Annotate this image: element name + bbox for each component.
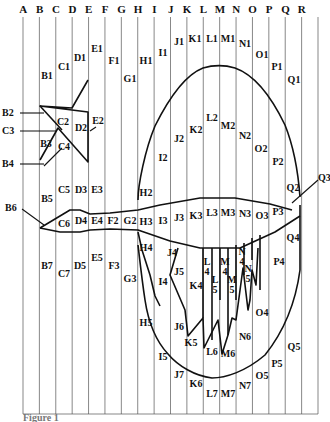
stacked-cell-label: 5 bbox=[213, 284, 218, 295]
cell-label: E4 bbox=[91, 215, 103, 226]
cell-label: L6 bbox=[206, 346, 218, 357]
cell-label: N3 bbox=[239, 208, 251, 219]
cell-label: D1 bbox=[74, 52, 86, 63]
stacked-cell-label: 5 bbox=[246, 273, 251, 284]
column-label: F bbox=[102, 3, 109, 15]
cell-label: J5 bbox=[174, 266, 184, 277]
cell-label: H5 bbox=[140, 317, 153, 328]
column-label: N bbox=[232, 3, 240, 15]
column-label: H bbox=[134, 3, 143, 15]
cell-label: B7 bbox=[41, 260, 53, 271]
cell-label: F2 bbox=[107, 215, 118, 226]
cell-label: D2 bbox=[75, 122, 87, 133]
cell-label: K2 bbox=[190, 124, 203, 135]
cell-label: K4 bbox=[190, 280, 203, 291]
cell-label: H1 bbox=[140, 55, 153, 66]
cell-label: H3 bbox=[140, 216, 153, 227]
side-label: B2 bbox=[2, 107, 14, 118]
cell-label: O1 bbox=[256, 49, 269, 60]
cell-label: Q1 bbox=[288, 74, 301, 85]
cell-label: L1 bbox=[206, 33, 218, 44]
side-label: C3 bbox=[2, 125, 14, 136]
cell-label: D5 bbox=[74, 260, 86, 271]
cell-label: H4 bbox=[140, 242, 153, 253]
cell-label: L7 bbox=[206, 388, 218, 399]
cell-label: P3 bbox=[272, 206, 283, 217]
column-label: B bbox=[36, 3, 44, 15]
side-label: B4 bbox=[2, 158, 14, 169]
cell-label: I4 bbox=[159, 276, 168, 287]
side-label: B6 bbox=[5, 202, 17, 213]
figure-caption: Figure 1 bbox=[23, 412, 59, 422]
cell-label: I3 bbox=[159, 215, 168, 226]
column-label: C bbox=[52, 3, 60, 15]
cell-label: I2 bbox=[159, 152, 168, 163]
oval-top-shape bbox=[138, 66, 300, 200]
stacked-cell-label: 4 bbox=[205, 266, 210, 277]
cell-label: J1 bbox=[174, 36, 184, 47]
cell-label: P2 bbox=[272, 156, 283, 167]
cell-label: N6 bbox=[239, 331, 251, 342]
cell-label: O4 bbox=[256, 307, 269, 318]
cell-label: M1 bbox=[221, 33, 235, 44]
cell-label: O5 bbox=[256, 370, 269, 381]
cell-label: G1 bbox=[124, 73, 137, 84]
cell-label: N7 bbox=[239, 380, 251, 391]
figure-canvas: ABCDEFGHIJKLMNOPQR B1C1D1E1F1G1H1I1J1K1L… bbox=[0, 0, 330, 422]
cell-label: M7 bbox=[221, 388, 235, 399]
cell-label: C1 bbox=[58, 61, 70, 72]
cell-label: J3 bbox=[174, 212, 184, 223]
cell-label: O2 bbox=[255, 143, 268, 154]
column-label: Q bbox=[281, 3, 290, 15]
column-label: R bbox=[298, 3, 307, 15]
cell-label: G2 bbox=[124, 215, 137, 226]
column-label: M bbox=[215, 3, 226, 15]
side-label: Q3 bbox=[318, 172, 330, 183]
cell-label: J7 bbox=[174, 369, 184, 380]
arrow-e2 bbox=[90, 127, 96, 131]
arrow-b6 bbox=[22, 209, 44, 225]
cell-label: L2 bbox=[206, 112, 218, 123]
cell-label: P5 bbox=[271, 358, 282, 369]
cell-label: Q2 bbox=[287, 182, 300, 193]
cell-label: C6 bbox=[58, 218, 70, 229]
cell-label: K1 bbox=[189, 33, 202, 44]
cell-label: L3 bbox=[206, 207, 218, 218]
cell-label: M6 bbox=[221, 348, 235, 359]
cell-label: D4 bbox=[75, 215, 87, 226]
column-label: L bbox=[200, 3, 207, 15]
cell-label: C5 bbox=[58, 184, 70, 195]
column-label: I bbox=[152, 3, 156, 15]
cell-label: N2 bbox=[239, 130, 251, 141]
cell-label: J6 bbox=[174, 321, 184, 332]
cell-label: P4 bbox=[273, 256, 284, 267]
cell-label: I1 bbox=[159, 47, 168, 58]
column-label: J bbox=[168, 3, 174, 15]
cell-label: C7 bbox=[58, 268, 70, 279]
column-label: P bbox=[266, 3, 273, 15]
column-label: G bbox=[117, 3, 126, 15]
cell-label: B5 bbox=[41, 193, 53, 204]
cell-label: Q4 bbox=[287, 232, 300, 243]
cell-label: E5 bbox=[91, 252, 103, 263]
column-label: A bbox=[19, 3, 27, 15]
grid-diagram: ABCDEFGHIJKLMNOPQR B1C1D1E1F1G1H1I1J1K1L… bbox=[0, 0, 330, 422]
cell-label: K5 bbox=[185, 337, 198, 348]
stacked-cell-label: 5 bbox=[230, 284, 235, 295]
cell-label: M2 bbox=[221, 120, 235, 131]
cell-label: D3 bbox=[75, 184, 87, 195]
column-label: E bbox=[85, 3, 92, 15]
cell-label: E1 bbox=[91, 43, 103, 54]
cell-label: Q5 bbox=[288, 341, 301, 352]
cell-label: O3 bbox=[256, 210, 269, 221]
cell-label: C2 bbox=[57, 116, 69, 127]
cell-label: J4 bbox=[167, 247, 177, 258]
column-label: O bbox=[248, 3, 257, 15]
cell-label: C4 bbox=[58, 141, 70, 152]
cell-label: B1 bbox=[41, 70, 53, 81]
column-label: D bbox=[68, 3, 76, 15]
cell-label: E2 bbox=[92, 115, 104, 126]
cell-label: E3 bbox=[91, 184, 103, 195]
cell-label: B3 bbox=[40, 138, 52, 149]
cell-label: I5 bbox=[159, 351, 168, 362]
